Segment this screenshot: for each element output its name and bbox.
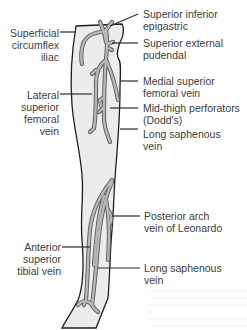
- label-long-saphenous-vein-upper: Long saphenous vein: [143, 128, 221, 152]
- label-line: Mid-thigh perforators: [143, 102, 240, 114]
- label-superior-external-pudendal: Superior external pudendal: [143, 37, 223, 61]
- label-line: vein of Leonardo: [144, 222, 222, 234]
- label-line: Long saphenous: [144, 262, 222, 274]
- label-line: Superficial: [10, 27, 59, 39]
- leg-vein-diagram: Superficial circumflex iliac Lateral sup…: [0, 0, 247, 330]
- label-line: femoral vein: [143, 87, 215, 99]
- label-line: tibial vein: [17, 265, 61, 277]
- label-line: epigastric: [143, 20, 218, 32]
- label-line: circumflex: [10, 39, 59, 51]
- label-line: vein: [143, 140, 221, 152]
- label-line: Posterior arch: [144, 210, 222, 222]
- label-line: Superior inferior: [143, 8, 218, 20]
- label-line: Superior external: [143, 37, 223, 49]
- label-posterior-arch-vein: Posterior arch vein of Leonardo: [144, 210, 222, 234]
- label-superior-inferior-epigastric: Superior inferior epigastric: [143, 8, 218, 32]
- label-line: pudendal: [143, 49, 223, 61]
- label-line: Long saphenous: [143, 128, 221, 140]
- label-line: vein: [21, 125, 59, 137]
- label-anterior-superior-tibial-vein: Anterior superior tibial vein: [17, 241, 61, 277]
- label-line: superior: [17, 253, 61, 265]
- label-line: Medial superior: [143, 75, 215, 87]
- label-line: (Dodd's): [143, 114, 240, 126]
- label-line: vein: [144, 274, 222, 286]
- label-line: Lateral: [21, 89, 59, 101]
- label-long-saphenous-vein-lower: Long saphenous vein: [144, 262, 222, 286]
- label-line: iliac: [10, 51, 59, 63]
- label-superficial-circumflex-iliac: Superficial circumflex iliac: [10, 27, 59, 63]
- label-line: femoral: [21, 113, 59, 125]
- label-line: superior: [21, 101, 59, 113]
- scan-bleed-through: [150, 290, 247, 330]
- label-lateral-superior-femoral-vein: Lateral superior femoral vein: [21, 89, 59, 137]
- label-mid-thigh-perforators: Mid-thigh perforators (Dodd's): [143, 102, 240, 126]
- label-medial-superior-femoral-vein: Medial superior femoral vein: [143, 75, 215, 99]
- label-line: Anterior: [17, 241, 61, 253]
